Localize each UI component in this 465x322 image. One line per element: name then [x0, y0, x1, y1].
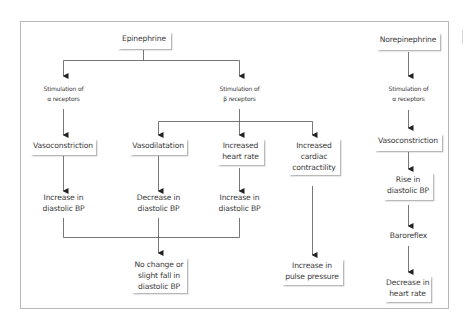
beta-receptor-label: Stimulation of β receptors	[209, 84, 270, 103]
increased-cardiac-contractility-box: Increased cardiac contractility	[288, 138, 340, 175]
increased-heart-rate-box: Increased heart rate	[217, 138, 264, 165]
decrease-heart-rate-box: Decrease in heart rate	[384, 275, 431, 302]
ne-alpha-receptor-label: Stimulation of α receptors	[378, 84, 439, 103]
baroreflex-label: Baroreflex	[378, 231, 439, 242]
beta-increase-diastolic-bp-label: Increase in diastolic BP	[209, 193, 270, 215]
alpha-increase-diastolic-bp-label: Increase in diastolic BP	[33, 193, 94, 215]
no-change-diastolic-bp-box: No change or slight fall in diastolic BP	[131, 257, 187, 293]
increase-pulse-pressure-box: Increase in pulse pressure	[281, 258, 343, 285]
ne-vasoconstriction-box: Vasoconstriction	[374, 133, 442, 151]
vasodilatation-box: Vasodilatation	[129, 138, 187, 155]
vasoconstriction-box: Vasoconstriction	[30, 138, 96, 155]
epinephrine-label: Epinephrine	[122, 34, 166, 43]
epinephrine-box: Epinephrine	[117, 31, 171, 49]
alpha-receptor-label: Stimulation of α receptors	[33, 84, 94, 103]
rise-diastolic-bp-box: Rise in diastolic BP	[383, 172, 433, 200]
norepinephrine-box: Norepinephrine	[376, 32, 440, 50]
decrease-diastolic-bp-label: Decrease in diastolic BP	[128, 193, 189, 215]
